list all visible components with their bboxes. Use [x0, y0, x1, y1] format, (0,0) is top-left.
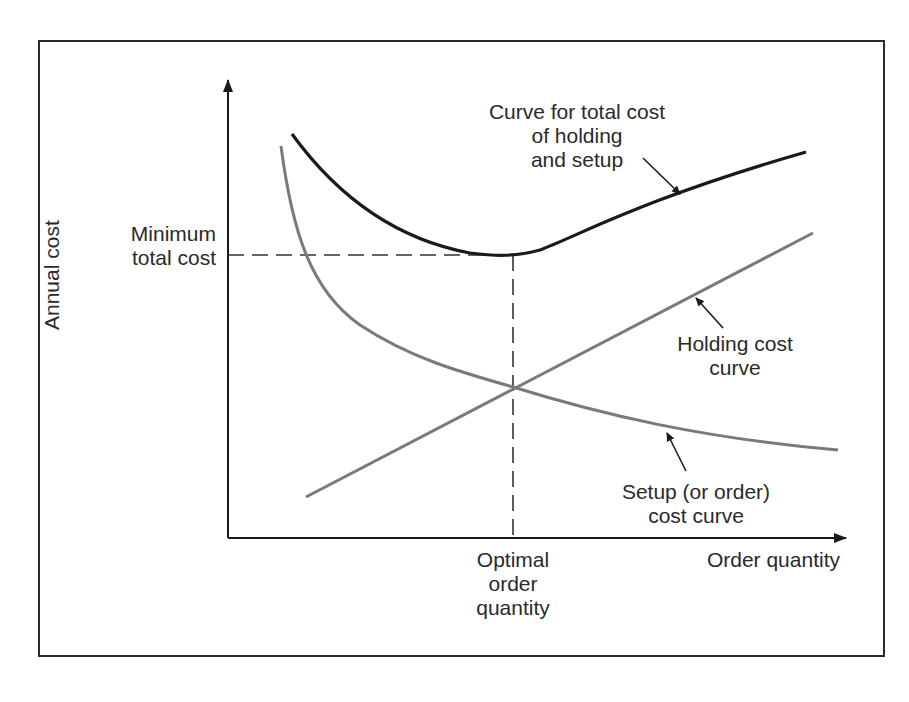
total-curve-label: Curve for total cost of holding and setu…: [462, 100, 692, 172]
holding-curve-line-1: Holding cost: [650, 332, 820, 356]
total-curve-line-2: of holding: [462, 124, 692, 148]
setup-cost-curve: [281, 146, 838, 450]
min-total-cost-line-1: Minimum: [108, 222, 216, 246]
optimal-qty-line-1: Optimal: [443, 548, 583, 572]
x-axis-label: Order quantity: [660, 548, 840, 572]
holding-curve-label: Holding cost curve: [650, 332, 820, 380]
min-total-cost-label: Minimum total cost: [108, 222, 216, 270]
total-curve-line-1: Curve for total cost: [462, 100, 692, 124]
optimal-qty-label: Optimal order quantity: [443, 548, 583, 620]
holding-curve-line-2: curve: [650, 356, 820, 380]
setup-curve-label: Setup (or order) cost curve: [596, 480, 796, 528]
optimal-qty-line-3: quantity: [443, 596, 583, 620]
setup-curve-line-2: cost curve: [596, 504, 796, 528]
optimal-qty-line-2: order: [443, 572, 583, 596]
holding-curve-pointer-arrow: [696, 298, 723, 328]
y-axis-label: Annual cost: [40, 220, 64, 330]
total-curve-line-3: and setup: [462, 148, 692, 172]
setup-curve-line-1: Setup (or order): [596, 480, 796, 504]
min-total-cost-line-2: total cost: [108, 246, 216, 270]
setup-curve-pointer-arrow: [667, 433, 686, 471]
